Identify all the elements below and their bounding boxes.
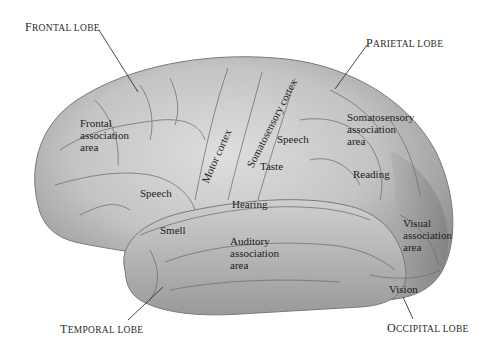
frontal-association-line2: association: [80, 129, 129, 141]
auditory-association-line2: association: [230, 247, 279, 259]
frontal-association-area-label: Frontal association area: [80, 117, 129, 153]
temporal-lobe-label: Temporal lobe: [60, 322, 143, 337]
reading-label: Reading: [353, 168, 390, 180]
auditory-association-line3: area: [230, 259, 279, 271]
parietal-lobe-label: Parietal lobe: [366, 36, 443, 51]
frontal-association-line3: area: [80, 141, 129, 153]
hearing-label: Hearing: [232, 198, 267, 210]
auditory-association-line1: Auditory: [230, 235, 279, 247]
speech-parietal-label: Speech: [277, 133, 309, 145]
visual-association-line2: association: [403, 229, 452, 241]
occipital-lobe-rest: ccipital lobe: [396, 324, 469, 334]
somatosensory-association-area-label: Somatosensory association area: [347, 111, 414, 147]
auditory-association-area-label: Auditory association area: [230, 235, 279, 271]
occipital-lobe-label: Occipital lobe: [387, 321, 469, 336]
brain-diagram: Frontal lobe Parietal lobe Temporal lobe…: [0, 0, 478, 351]
parietal-lobe-rest: arietal lobe: [373, 39, 443, 49]
frontal-lobe-label: Frontal lobe: [25, 20, 100, 35]
taste-label: Taste: [260, 160, 283, 172]
frontal-lobe-initial: F: [25, 20, 32, 34]
occipital-lobe-initial: O: [387, 321, 396, 335]
visual-association-line3: area: [403, 241, 452, 253]
frontal-association-line1: Frontal: [80, 117, 129, 129]
visual-association-line1: Visual: [403, 217, 452, 229]
vision-label: Vision: [389, 283, 418, 295]
temporal-lobe-rest: emporal lobe: [68, 325, 144, 335]
somatosensory-association-line2: association: [347, 123, 414, 135]
frontal-lobe-rest: rontal lobe: [32, 23, 100, 33]
temporal-lobe-initial: T: [60, 322, 68, 336]
parietal-lobe-initial: P: [366, 36, 373, 50]
occipital-lobe-leader: [403, 297, 413, 319]
smell-label: Smell: [160, 224, 186, 236]
somatosensory-association-line3: area: [347, 135, 414, 147]
brain-illustration: [0, 0, 478, 351]
somatosensory-association-line1: Somatosensory: [347, 111, 414, 123]
visual-association-area-label: Visual association area: [403, 217, 452, 253]
speech-frontal-label: Speech: [140, 187, 172, 199]
